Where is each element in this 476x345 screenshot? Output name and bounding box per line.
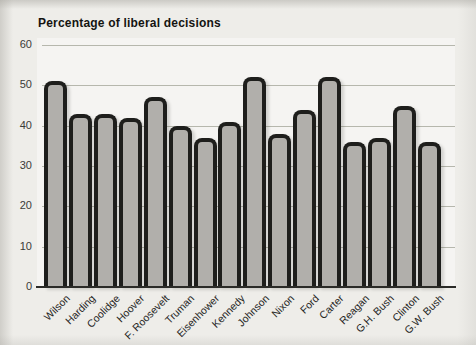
bar-carter bbox=[318, 77, 341, 288]
liberal-decisions-bar-chart-figure: Percentage of liberal decisions 01020304… bbox=[0, 0, 476, 345]
bar-clinton bbox=[393, 106, 416, 288]
bar-f-roosevelt bbox=[144, 97, 167, 288]
bar-truman bbox=[169, 126, 192, 288]
x-axis-category-label: Nixon bbox=[269, 292, 296, 319]
bar-hoover bbox=[119, 118, 142, 288]
y-axis-tick-label: 40 bbox=[2, 119, 32, 131]
bar-johnson bbox=[243, 77, 266, 288]
bar-wilson bbox=[44, 81, 67, 288]
bar-kennedy bbox=[218, 122, 241, 288]
y-axis-tick-label: 10 bbox=[2, 240, 32, 252]
y-axis-tick-label: 20 bbox=[2, 199, 32, 211]
bar-harding bbox=[69, 114, 92, 288]
bar-nixon bbox=[268, 134, 291, 288]
bar-g-h-bush bbox=[368, 138, 391, 288]
bar-eisenhower bbox=[194, 138, 217, 288]
y-axis-tick-label: 50 bbox=[2, 78, 32, 90]
bar-ford bbox=[293, 110, 316, 288]
bar-coolidge bbox=[94, 114, 117, 288]
gridline-60 bbox=[42, 45, 455, 46]
y-axis-tick-label: 0 bbox=[2, 280, 32, 292]
chart-title: Percentage of liberal decisions bbox=[38, 16, 221, 30]
bar-g-w-bush bbox=[418, 142, 441, 288]
y-axis-tick-label: 30 bbox=[2, 159, 32, 171]
bar-reagan bbox=[343, 142, 366, 288]
x-axis-line bbox=[36, 286, 456, 288]
y-axis-tick-label: 60 bbox=[2, 38, 32, 50]
